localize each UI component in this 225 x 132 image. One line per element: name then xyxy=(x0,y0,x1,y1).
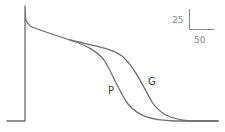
action-potential-diagram xyxy=(0,0,225,132)
trace-p xyxy=(70,40,218,121)
scale-bar xyxy=(190,9,215,30)
trace-label-g: G xyxy=(148,77,156,87)
trace-g xyxy=(70,40,218,121)
trace-label-p: P xyxy=(108,86,114,96)
scale-horizontal-label: 50 xyxy=(194,36,205,45)
scale-vertical-label: 25 xyxy=(172,16,183,25)
baseline-and-upstroke xyxy=(7,6,70,121)
